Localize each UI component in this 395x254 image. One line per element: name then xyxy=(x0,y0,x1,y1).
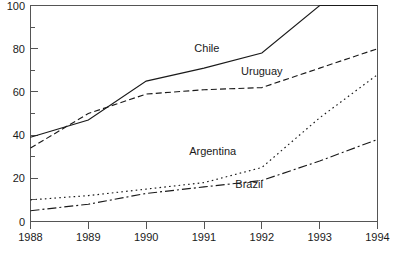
x-axis-label-1991: 1991 xyxy=(192,231,216,243)
x-axis-label-1993: 1993 xyxy=(307,231,331,243)
x-axis-label-1990: 1990 xyxy=(134,231,158,243)
y-axis-label-100: 100 xyxy=(7,0,25,12)
series-line-argentina xyxy=(31,75,378,200)
line-chart: 100 80 60 40 20 0 1988 1989 1990 1991 19… xyxy=(0,0,395,254)
y-axis-label-0: 0 xyxy=(19,216,25,228)
series-line-uruguay xyxy=(31,49,378,148)
y-axis-label-40: 40 xyxy=(13,129,25,141)
x-axis-label-1994: 1994 xyxy=(365,231,389,243)
y-axis-label-60: 60 xyxy=(13,86,25,98)
x-axis-ticks xyxy=(31,222,378,229)
series-label-argentina: Argentina xyxy=(189,145,237,157)
series-label-uruguay: Uruguay xyxy=(241,65,283,77)
x-axis-label-1988: 1988 xyxy=(18,231,42,243)
series-annotations: Chile Uruguay Argentina Brazil xyxy=(189,42,283,190)
y-axis-label-80: 80 xyxy=(13,43,25,55)
chart-canvas: 100 80 60 40 20 0 1988 1989 1990 1991 19… xyxy=(0,0,395,254)
x-axis-labels: 1988 1989 1990 1991 1992 1993 1994 xyxy=(18,231,389,243)
y-axis-label-20: 20 xyxy=(13,172,25,184)
series-label-brazil: Brazil xyxy=(235,178,263,190)
data-series-group xyxy=(31,6,378,211)
series-label-chile: Chile xyxy=(194,42,219,54)
y-axis-minor-ticks xyxy=(31,27,35,200)
x-axis-label-1992: 1992 xyxy=(250,231,274,243)
x-axis-label-1989: 1989 xyxy=(76,231,100,243)
y-axis-labels: 100 80 60 40 20 0 xyxy=(7,0,25,228)
